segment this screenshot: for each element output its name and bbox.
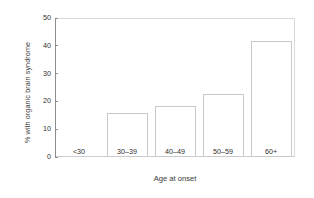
bar-chart-figure: % with organic brain syndrome 0102030405… bbox=[0, 0, 314, 198]
x-tick-label: 40–49 bbox=[151, 147, 199, 156]
y-tick-label: 20 bbox=[43, 96, 51, 106]
y-tick: 30 bbox=[29, 69, 59, 79]
y-tick-label: 10 bbox=[43, 124, 51, 134]
y-tick: 40 bbox=[29, 41, 59, 51]
x-tick-label: 60+ bbox=[247, 147, 295, 156]
y-tick: 50 bbox=[29, 13, 59, 23]
y-axis-line bbox=[55, 18, 56, 157]
y-tick-mark bbox=[55, 45, 58, 46]
x-axis-title: Age at onset bbox=[55, 174, 295, 183]
y-tick-mark bbox=[55, 129, 58, 130]
plot-area: 01020304050 bbox=[55, 18, 295, 157]
plot-frame-right bbox=[294, 18, 295, 157]
y-tick-label: 0 bbox=[47, 152, 51, 162]
plot-frame-top bbox=[55, 18, 295, 19]
y-tick-mark bbox=[55, 18, 58, 19]
bar bbox=[251, 41, 292, 157]
y-tick-mark bbox=[55, 157, 58, 158]
y-tick-mark bbox=[55, 73, 58, 74]
y-tick: 10 bbox=[29, 124, 59, 134]
x-tick-label: 30–39 bbox=[103, 147, 151, 156]
x-tick-label: 50–59 bbox=[199, 147, 247, 156]
y-tick: 20 bbox=[29, 96, 59, 106]
y-tick-mark bbox=[55, 101, 58, 102]
x-tick-label: <30 bbox=[55, 147, 103, 156]
y-tick-label: 40 bbox=[43, 41, 51, 51]
y-tick-label: 30 bbox=[43, 69, 51, 79]
y-tick-label: 50 bbox=[43, 13, 51, 23]
